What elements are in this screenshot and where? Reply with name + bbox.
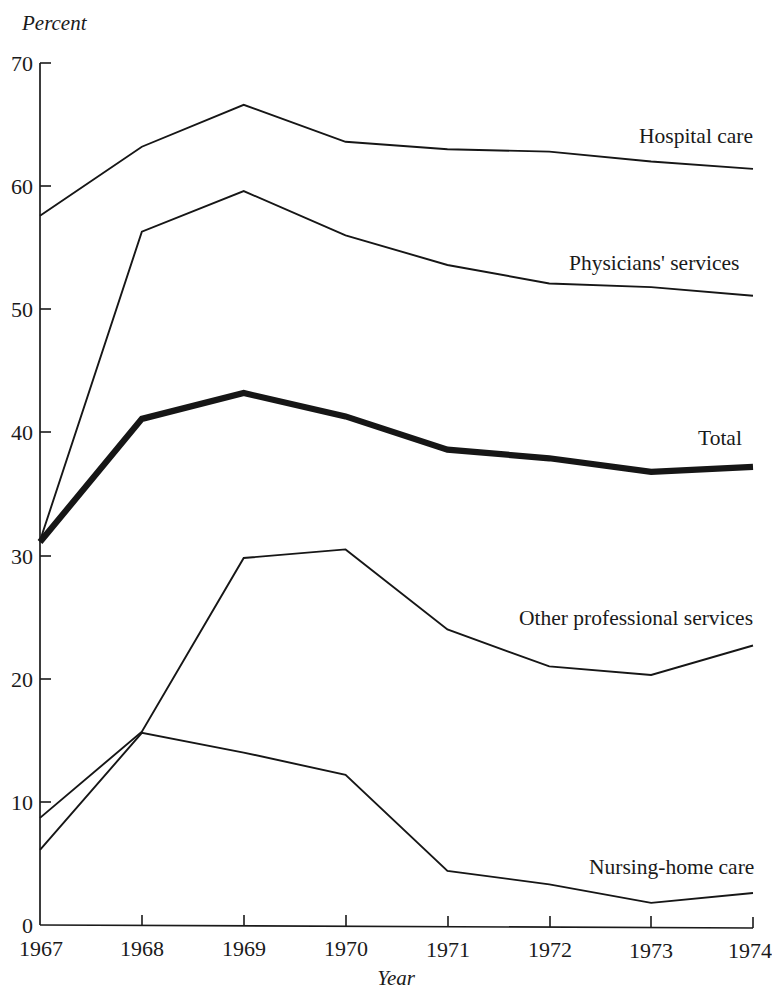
x-tick-label-1970: 1970 [324,936,368,961]
series-label-total: Total [698,426,742,450]
y-tick-marks [40,63,51,802]
x-tick-label-1967: 1967 [19,936,63,961]
y-tick-label-50: 50 [11,297,33,322]
series-label-other-professional-services: Other professional services [519,606,753,630]
series-group [40,105,753,903]
series-line-other-professional-services [40,549,753,817]
y-tick-label-10: 10 [11,790,33,815]
y-tick-label-0: 0 [22,913,33,938]
axes-group [40,63,753,928]
line-chart-svg: 70 60 50 40 30 20 10 0 Percent 1967 1968… [0,0,772,991]
x-tick-label-1972: 1972 [528,937,572,962]
x-tick-label-1971: 1971 [426,937,470,962]
y-tick-label-70: 70 [11,51,33,76]
series-label-nursing-home-care: Nursing-home care [589,855,754,879]
x-tick-labels: 1967 1968 1969 1970 1971 1972 1973 1974 [19,936,772,963]
series-line-total [40,393,753,542]
y-tick-label-20: 20 [11,667,33,692]
x-axis-title: Year [377,966,416,990]
y-tick-label-30: 30 [11,544,33,569]
series-line-hospital-care [40,105,753,216]
chart-figure: 70 60 50 40 30 20 10 0 Percent 1967 1968… [0,0,772,991]
x-tick-label-1969: 1969 [222,936,266,961]
y-axis-title: Percent [21,11,88,35]
series-label-physicians-services: Physicians' services [569,251,739,275]
y-tick-labels: 70 60 50 40 30 20 10 0 [11,51,33,938]
x-tick-label-1974: 1974 [728,938,772,963]
y-tick-label-40: 40 [11,420,33,445]
x-tick-label-1968: 1968 [120,936,164,961]
x-tick-label-1973: 1973 [629,938,673,963]
series-line-physicians-services [40,191,753,541]
series-labels-group: Hospital care Physicians' services Total… [519,124,754,879]
x-axis [40,925,753,928]
series-label-hospital-care: Hospital care [639,124,753,148]
y-tick-label-60: 60 [11,174,33,199]
